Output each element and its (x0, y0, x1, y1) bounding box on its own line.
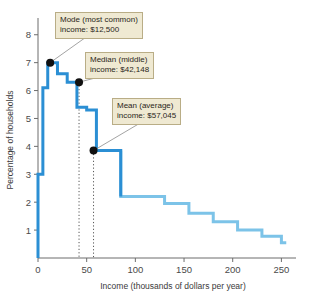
callout-mean-line2: income: $57,045 (117, 111, 176, 121)
callout-median: Median (middle) income: $42,148 (85, 52, 154, 79)
svg-text:100: 100 (127, 264, 143, 275)
x-axis-title: Income (thousands of dollars per year) (100, 281, 246, 291)
callout-mode: Mode (most common) income: $12,500 (55, 12, 143, 39)
svg-text:150: 150 (176, 264, 192, 275)
y-tick-group: 12345678 (26, 29, 38, 235)
svg-text:50: 50 (81, 264, 92, 275)
svg-text:0: 0 (35, 264, 40, 275)
svg-text:1: 1 (26, 225, 31, 236)
income-distribution-chart: 050100150200250 12345678 Income (thousan… (0, 0, 315, 307)
callout-mean: Mean (average) income: $57,045 (112, 98, 181, 125)
leader-line-group (50, 30, 152, 151)
x-tick-group: 050100150200250 (35, 258, 289, 275)
svg-text:200: 200 (225, 264, 241, 275)
svg-text:6: 6 (26, 85, 31, 96)
y-axis-title: Percentage of households (5, 91, 15, 190)
axis-group (38, 18, 296, 258)
callout-mode-line2: income: $12,500 (60, 25, 138, 35)
callout-median-line1: Median (middle) (90, 55, 149, 65)
svg-text:7: 7 (26, 57, 31, 68)
chart-canvas: 050100150200250 12345678 Income (thousan… (0, 0, 315, 307)
svg-text:8: 8 (26, 29, 31, 40)
callout-median-line2: income: $42,148 (90, 65, 149, 75)
svg-text:5: 5 (26, 113, 31, 124)
distribution-curve-light (121, 151, 287, 243)
callout-mode-line1: Mode (most common) (60, 15, 138, 25)
svg-text:3: 3 (26, 169, 31, 180)
svg-text:4: 4 (26, 141, 31, 152)
svg-text:2: 2 (26, 197, 31, 208)
svg-text:250: 250 (273, 264, 289, 275)
callout-mean-line1: Mean (average) (117, 101, 176, 111)
